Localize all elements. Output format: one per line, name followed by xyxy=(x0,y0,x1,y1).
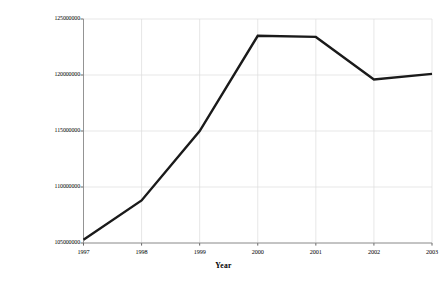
x-axis-title: Year xyxy=(0,261,447,270)
x-axis-tick-label: 1998 xyxy=(124,248,160,255)
chart-figure: Mean Overnight Stays in the Hotel Market… xyxy=(0,0,447,283)
x-axis-tick-label: 2002 xyxy=(356,248,392,255)
y-axis-tick-label: 110000000 xyxy=(28,183,80,189)
x-axis-tick-label: 2001 xyxy=(298,248,334,255)
y-axis-tick-label: 105000000 xyxy=(28,239,80,245)
x-axis-tick-label: 1997 xyxy=(66,248,102,255)
x-axis-tick-label: 2000 xyxy=(240,248,276,255)
y-axis-tick-label: 125000000 xyxy=(28,15,80,21)
y-axis-tick-label: 120000000 xyxy=(28,71,80,77)
x-axis-tick-label: 2003 xyxy=(414,248,447,255)
y-axis-ticks xyxy=(81,19,433,246)
gridlines xyxy=(84,19,433,243)
x-axis-tick-label: 1999 xyxy=(182,248,218,255)
y-axis-tick-label: 115000000 xyxy=(28,127,80,133)
